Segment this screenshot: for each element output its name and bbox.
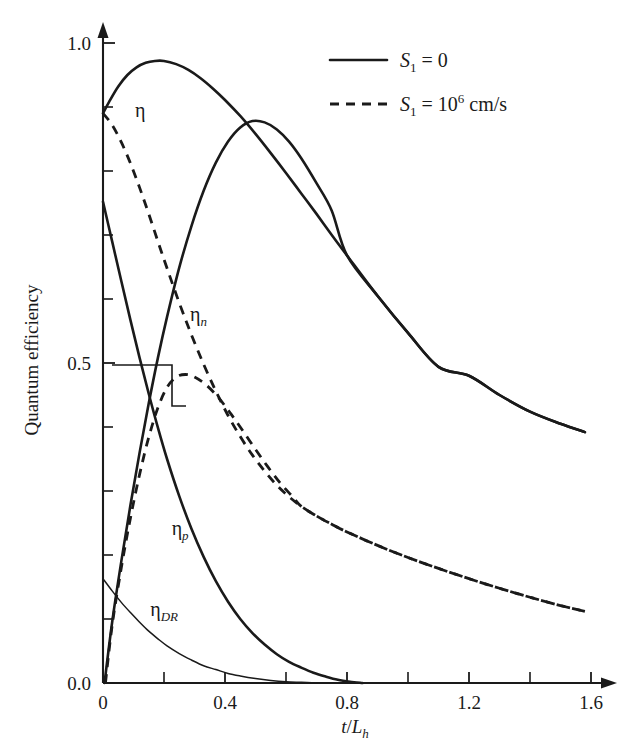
y-tick-label-group: 0.00.51.0 <box>67 33 91 694</box>
x-axis-title: t/Lh <box>341 716 369 741</box>
axes-group <box>98 22 618 689</box>
y-axis-arrow-icon <box>98 22 109 38</box>
legend-label-s1-zero: S1 = 0 <box>400 49 448 75</box>
legend-label-s1-1e6: S1 = 106 cm/s <box>400 91 507 119</box>
x-tick-label-8: 1.6 <box>579 692 603 713</box>
label-eta-dr: ηDR <box>150 598 178 624</box>
figure-root: 00.40.81.21.6 0.00.51.0 ηηnηpηDR S1 = 0 … <box>0 0 644 753</box>
legend: S1 = 0 S1 = 106 cm/s <box>330 49 507 119</box>
curve-eta-n-solid <box>105 121 585 683</box>
quantum-efficiency-chart: 00.40.81.21.6 0.00.51.0 ηηnηpηDR S1 = 0 … <box>0 0 644 753</box>
label-eta: η <box>135 99 145 122</box>
curve-group <box>103 61 585 683</box>
y-axis-title: Quantum efficiency <box>21 284 42 436</box>
x-tick-label-4: 0.8 <box>335 692 359 713</box>
label-eta-p: ηp <box>172 517 189 543</box>
label-eta-n: ηn <box>190 303 207 329</box>
curve-label-group: ηηnηpηDR <box>135 99 207 624</box>
x-tick-label-6: 1.2 <box>457 692 481 713</box>
x-axis-arrow-icon <box>601 678 617 689</box>
x-tick-label-2: 0.4 <box>213 692 237 713</box>
x-tick-label-group: 00.40.81.21.6 <box>98 692 603 713</box>
curve-eta-dr-solid-thin <box>103 579 317 683</box>
y-tick-label-10: 1.0 <box>67 33 91 54</box>
x-tick-label-0: 0 <box>98 692 108 713</box>
y-tick-label-5: 0.5 <box>67 353 91 374</box>
y-tick-label-0: 0.0 <box>67 673 91 694</box>
